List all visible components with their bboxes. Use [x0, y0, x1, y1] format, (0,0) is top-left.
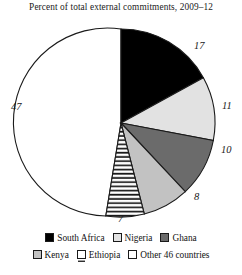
legend-item-ghana[interactable]: Ghana	[160, 233, 196, 243]
legend-item-other-46-countries[interactable]: Other 46 countries	[128, 250, 209, 260]
legend-label-ghana: Ghana	[172, 233, 196, 243]
legend-label-nigeria: Nigeria	[125, 233, 153, 243]
pie-label-nigeria: 11	[222, 101, 232, 112]
legend-label-ethiopia: Ethiopia	[89, 250, 121, 260]
legend-swatch-ethiopia	[77, 250, 86, 259]
legend-item-south-africa[interactable]: South Africa	[45, 233, 104, 243]
pie-label-south-africa: 17	[194, 41, 205, 52]
pie-label-ghana: 10	[221, 145, 232, 156]
pie-slice-other-46-countries	[13, 28, 121, 216]
chart-title: Percent of total external commitments, 2…	[0, 2, 242, 12]
hatch-icon	[78, 258, 85, 265]
legend-label-south-africa: South Africa	[57, 233, 104, 243]
pie-label-other-46-countries: 47	[11, 102, 22, 113]
legend-item-nigeria[interactable]: Nigeria	[113, 233, 153, 243]
legend-swatch-other-46-countries	[128, 250, 137, 259]
pie-label-ethiopia: 7	[118, 214, 123, 225]
legend-item-kenya[interactable]: Kenya	[33, 250, 69, 260]
legend-row: Kenya Ethiopia Other 46 countries	[0, 246, 242, 263]
pie-chart: 17 11 10 8 7 47	[0, 16, 242, 228]
legend-label-kenya: Kenya	[45, 250, 69, 260]
legend: South Africa Nigeria Ghana Kenya Ethiopi…	[0, 229, 242, 263]
legend-swatch-ghana	[160, 233, 169, 242]
legend-item-ethiopia[interactable]: Ethiopia	[77, 250, 121, 260]
pie-label-kenya: 8	[194, 192, 199, 203]
pie-chart-svg	[0, 16, 242, 228]
legend-swatch-nigeria	[113, 233, 122, 242]
legend-label-other-46-countries: Other 46 countries	[140, 250, 209, 260]
legend-swatch-kenya	[33, 250, 42, 259]
legend-swatch-south-africa	[45, 233, 54, 242]
legend-row: South Africa Nigeria Ghana	[0, 229, 242, 246]
